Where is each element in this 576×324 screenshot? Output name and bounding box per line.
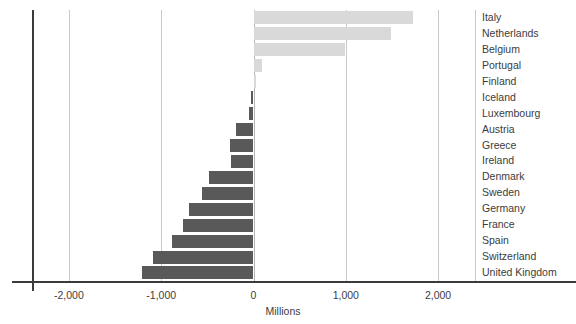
x-axis-spine [12,281,576,283]
bar [254,43,345,56]
category-label-germany: Germany [482,201,525,217]
bar-row [32,201,475,217]
category-label-united-kingdom: United Kingdom [482,265,557,281]
bar-row [32,26,475,42]
bar [189,203,254,216]
bar [202,187,253,200]
bar [251,91,254,104]
category-label-austria: Austria [482,122,515,138]
bar [183,219,253,232]
category-labels: ItalyNetherlandsBelgiumPortugalFinlandIc… [482,10,576,281]
bar-row [32,265,475,281]
bar [153,251,254,264]
bar-row [32,106,475,122]
category-label-greece: Greece [482,138,516,154]
bar [209,171,253,184]
bar-row [32,249,475,265]
category-label-denmark: Denmark [482,169,525,185]
bar-row [32,90,475,106]
bar [231,155,253,168]
category-label-france: France [482,217,515,233]
plot-area [32,10,475,281]
x-tick-label: -1,000 [146,289,176,301]
bar-row [32,153,475,169]
x-tick-label: 0 [251,289,257,301]
bar-row [32,74,475,90]
bar-row [32,185,475,201]
category-label-portugal: Portugal [482,58,521,74]
category-label-spain: Spain [482,233,509,249]
bar [254,11,414,24]
bar [236,123,254,136]
bar [254,27,391,40]
bar-row [32,169,475,185]
x-tick-label: -2,000 [54,289,84,301]
bar-row [32,233,475,249]
bar-chart: ItalyNetherlandsBelgiumPortugalFinlandIc… [0,0,576,324]
category-label-belgium: Belgium [482,42,520,58]
bar [254,59,262,72]
category-label-iceland: Iceland [482,90,516,106]
category-label-finland: Finland [482,74,516,90]
category-label-luxembourg: Luxembourg [482,106,540,122]
bar [230,139,253,152]
x-axis-title: Millions [265,305,300,317]
bar-row [32,58,475,74]
bar [142,266,254,279]
category-label-sweden: Sweden [482,185,520,201]
x-tick-label: 1,000 [333,289,359,301]
category-label-switzerland: Switzerland [482,249,536,265]
bar [249,107,253,120]
bar-row [32,138,475,154]
x-tick-label: 2,000 [425,289,451,301]
category-label-italy: Italy [482,10,501,26]
bar [172,235,253,248]
category-label-separator [475,10,476,281]
category-label-netherlands: Netherlands [482,26,539,42]
category-label-ireland: Ireland [482,153,514,169]
bar-row [32,217,475,233]
bar-row [32,42,475,58]
x-axis-tick-stub [32,282,34,291]
y-axis-spine [32,10,34,282]
bar-row [32,122,475,138]
bar [254,75,256,88]
bar-row [32,10,475,26]
